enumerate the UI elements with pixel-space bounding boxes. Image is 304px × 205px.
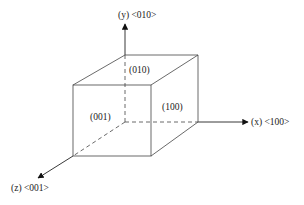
z-axis-label: (z) <001> xyxy=(11,183,49,194)
axes xyxy=(38,24,248,178)
front-face xyxy=(73,85,151,156)
cube-axes-diagram: (y) <010> (x) <100> (z) <001> (010) (100… xyxy=(0,0,304,205)
face-label-top: (010) xyxy=(129,65,150,76)
z-axis xyxy=(38,156,73,178)
face-label-front: (001) xyxy=(90,112,111,123)
y-axis-label: (y) <010> xyxy=(118,10,156,21)
face-label-right: (100) xyxy=(162,102,183,113)
x-axis-label: (x) <100> xyxy=(251,117,289,128)
hidden-depth-edge xyxy=(73,122,125,156)
